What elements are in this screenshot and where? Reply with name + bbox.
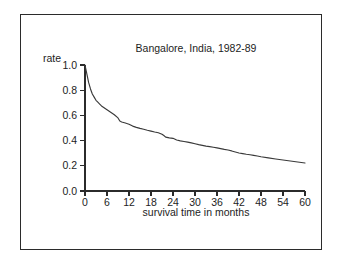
- x-tick-label: 18: [145, 196, 157, 208]
- y-tick-label: 0.2: [62, 159, 77, 171]
- x-tick-label: 6: [104, 196, 110, 208]
- x-tick-label: 0: [82, 196, 88, 208]
- x-axis-tick-labels: 0 6 12 18 24 30 36 42 48 54 60: [82, 196, 311, 208]
- y-tick-label: 1.0: [62, 59, 77, 71]
- x-tick-label: 42: [233, 196, 245, 208]
- y-axis-tick-labels: 0.0 0.2 0.4 0.6 0.8 1.0: [62, 59, 77, 197]
- y-tick-label: 0.8: [62, 84, 77, 96]
- x-tick-label: 36: [211, 196, 223, 208]
- x-tick-label: 30: [189, 196, 201, 208]
- x-tick-label: 60: [299, 196, 311, 208]
- x-tick-label: 12: [123, 196, 135, 208]
- x-tick-label: 54: [277, 196, 289, 208]
- survival-curve-line: [85, 65, 305, 163]
- x-tick-label: 24: [167, 196, 179, 208]
- y-tick-label: 0.0: [62, 185, 77, 197]
- chart-title: Bangalore, India, 1982-89: [136, 42, 257, 54]
- y-tick-label: 0.6: [62, 109, 77, 121]
- y-axis-ticks: [80, 65, 85, 191]
- survival-chart: Bangalore, India, 1982-89 rate survival …: [0, 0, 342, 263]
- figure-root: Bangalore, India, 1982-89 rate survival …: [0, 0, 342, 263]
- y-axis-label: rate: [43, 52, 61, 64]
- x-tick-label: 48: [255, 196, 267, 208]
- y-tick-label: 0.4: [62, 134, 77, 146]
